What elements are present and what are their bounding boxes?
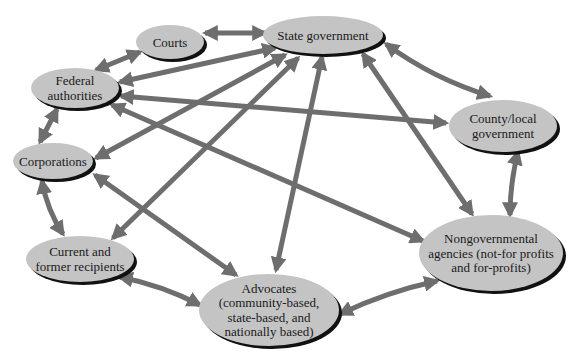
node-advocates: Advocates(community-based,state-based, a… [199, 274, 342, 349]
node-label: state-based, and [227, 310, 311, 325]
node-ngo: Nongovernmentalagencies (not-for profits… [419, 215, 566, 294]
edge-federal-corporations [40, 109, 57, 142]
edge-state-county [386, 44, 490, 96]
node-label: (community-based, [219, 295, 320, 310]
node-state: State government [263, 16, 386, 57]
node-corporations: Corporations [13, 143, 96, 182]
node-courts: Courts [136, 25, 207, 62]
node-label: and for-profits) [451, 260, 531, 275]
node-label: Corporations [19, 154, 87, 169]
node-label: nationally based) [224, 324, 313, 339]
node-label: County/local [469, 111, 537, 126]
node-label: Nongovernmental [444, 231, 538, 246]
node-label: authorities [48, 88, 103, 103]
edge-state-advocates [276, 57, 322, 270]
edge-advocates-ngo [340, 281, 437, 314]
edge-courts-federal [96, 52, 140, 70]
node-label: Advocates [242, 281, 297, 296]
node-label: government [472, 126, 534, 141]
node-label: Current and [49, 244, 111, 259]
node-label: Courts [153, 35, 188, 50]
node-label: former recipients [35, 259, 124, 274]
welfare-stakeholder-network-diagram: CourtsState governmentFederalauthorities… [0, 0, 585, 362]
node-recipients: Current andformer recipients [26, 236, 137, 285]
node-label: agencies (not-for profits [428, 246, 554, 261]
node-federal: Federalauthorities [31, 68, 122, 111]
edge-corporations-recipients [42, 181, 63, 234]
node-label: Federal [56, 73, 95, 88]
node-county: County/localgovernment [449, 100, 560, 155]
node-label: State government [277, 28, 369, 43]
edge-recipients-advocates [120, 277, 200, 305]
edge-county-ngo [510, 152, 518, 215]
